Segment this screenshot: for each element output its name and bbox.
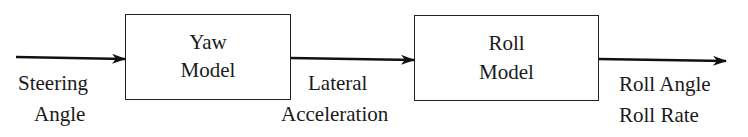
- intermediate-label-line2: Acceleration: [281, 101, 388, 128]
- roll-model-line1: Roll: [415, 30, 598, 56]
- roll-model-line2: Model: [415, 59, 598, 85]
- input-label-line1: Steering: [18, 70, 88, 97]
- intermediate-label-line1: Lateral: [308, 70, 367, 97]
- roll-model-block: Roll Model: [414, 15, 599, 101]
- yaw-model-line1: Yaw: [126, 29, 290, 55]
- yaw-model-line2: Model: [126, 57, 290, 83]
- yaw-to-roll-arrow: [290, 58, 414, 60]
- output-arrow: [598, 59, 726, 61]
- output-label-line2: Roll Rate: [619, 102, 699, 129]
- input-label-line2: Angle: [34, 101, 85, 128]
- output-label-line1: Roll Angle: [619, 71, 711, 98]
- yaw-model-block: Yaw Model: [125, 14, 291, 100]
- input-arrow: [16, 57, 125, 59]
